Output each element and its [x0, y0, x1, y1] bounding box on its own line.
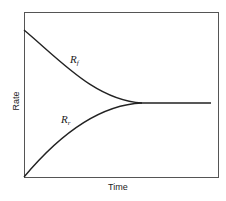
y-axis-label: Rate — [11, 91, 21, 110]
plot-frame — [25, 13, 219, 178]
forward-rate-label-sub: f — [77, 59, 79, 67]
reverse-rate-label: Rr — [61, 113, 70, 127]
reverse-rate-label-sub: r — [68, 119, 71, 127]
forward-rate-curve — [24, 30, 211, 103]
reverse-rate-curve — [24, 103, 142, 177]
x-axis-label: Time — [108, 182, 128, 192]
reverse-rate-label-main: R — [61, 113, 68, 125]
chart-plot — [0, 0, 226, 201]
forward-rate-label-main: R — [70, 53, 77, 65]
forward-rate-label: Rf — [70, 53, 79, 67]
